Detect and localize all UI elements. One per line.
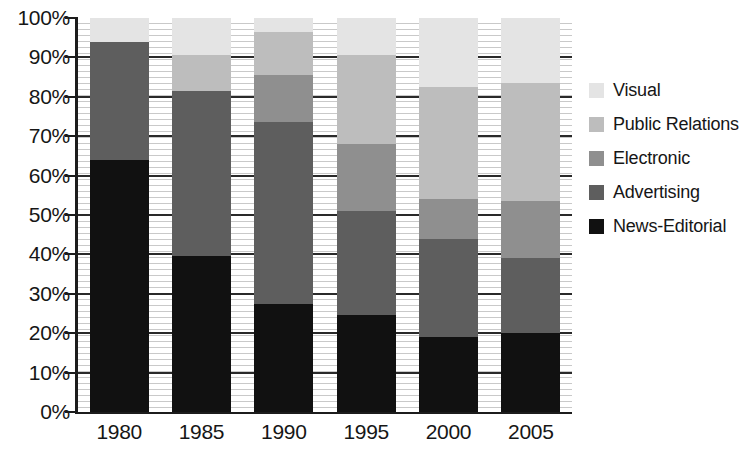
legend-item[interactable]: News-Editorial (589, 209, 748, 243)
y-axis-tick (65, 253, 78, 255)
legend-label: Public Relations (613, 114, 739, 134)
bar-segment[interactable] (501, 18, 560, 83)
bar-segment[interactable] (172, 256, 231, 412)
x-tick-label: 1995 (325, 420, 407, 444)
y-tick-label: 20% (0, 322, 70, 343)
bar-group[interactable] (419, 18, 478, 412)
y-tick-label: 100% (0, 7, 70, 28)
y-tick-label: 10% (0, 362, 70, 383)
bar-segment[interactable] (172, 55, 231, 90)
bar-segment[interactable] (172, 18, 231, 55)
bar-segment[interactable] (337, 144, 396, 211)
legend-swatch-icon (589, 117, 604, 132)
y-tick-label: 70% (0, 125, 70, 146)
gridline (78, 293, 572, 295)
legend: VisualPublic RelationsElectronicAdvertis… (589, 73, 748, 243)
legend-label: Visual (613, 80, 661, 100)
legend-swatch-icon (589, 151, 604, 166)
y-axis-tick (65, 96, 78, 98)
legend-swatch-icon (589, 219, 604, 234)
gridline (78, 214, 572, 216)
y-axis-tick (65, 214, 78, 216)
y-axis-tick (65, 332, 78, 334)
y-axis-tick (65, 175, 78, 177)
y-axis-tick (65, 411, 78, 413)
bar-segment[interactable] (419, 337, 478, 412)
bar-segment[interactable] (172, 91, 231, 256)
legend-item[interactable]: Advertising (589, 175, 748, 209)
bar-segment[interactable] (419, 87, 478, 199)
bar-segment[interactable] (90, 160, 149, 412)
gridline (78, 253, 572, 255)
gridline (78, 56, 572, 58)
bar-segment[interactable] (254, 75, 313, 122)
bar-group[interactable] (337, 18, 396, 412)
bar-segment[interactable] (337, 55, 396, 144)
y-axis-tick (65, 293, 78, 295)
bar-segment[interactable] (254, 122, 313, 303)
bar-segment[interactable] (419, 239, 478, 338)
x-axis: 198019851990199520002005 (78, 420, 572, 453)
bar-group[interactable] (501, 18, 560, 412)
bar-group[interactable] (90, 18, 149, 412)
y-axis-tick (65, 56, 78, 58)
y-tick-label: 60% (0, 165, 70, 186)
legend-label: News-Editorial (613, 216, 726, 236)
bar-segment[interactable] (254, 304, 313, 412)
legend-label: Electronic (613, 148, 690, 168)
y-tick-label: 50% (0, 204, 70, 225)
legend-label: Advertising (613, 182, 700, 202)
bar-segment[interactable] (90, 42, 149, 160)
y-tick-label: 0% (0, 401, 70, 422)
y-axis-tick (65, 17, 78, 19)
x-tick-label: 2005 (490, 420, 572, 444)
bar-segment[interactable] (254, 18, 313, 32)
y-axis-tick (65, 135, 78, 137)
x-tick-label: 2000 (407, 420, 489, 444)
y-tick-label: 30% (0, 283, 70, 304)
gridline (78, 372, 572, 374)
bar-segment[interactable] (419, 199, 478, 238)
x-tick-label: 1985 (160, 420, 242, 444)
y-axis: 0%10%20%30%40%50%60%70%80%90%100% (0, 0, 70, 453)
bar-segment[interactable] (501, 201, 560, 258)
plot-area (78, 18, 572, 412)
bar-group[interactable] (254, 18, 313, 412)
bar-group[interactable] (172, 18, 231, 412)
y-tick-label: 90% (0, 46, 70, 67)
bar-segment[interactable] (501, 258, 560, 333)
legend-item[interactable]: Public Relations (589, 107, 748, 141)
bar-segment[interactable] (337, 18, 396, 55)
bar-segment[interactable] (337, 315, 396, 412)
y-axis-tick (65, 372, 78, 374)
legend-item[interactable]: Electronic (589, 141, 748, 175)
x-tick-label: 1990 (243, 420, 325, 444)
gridline (78, 135, 572, 137)
legend-swatch-icon (589, 185, 604, 200)
y-tick-label: 80% (0, 86, 70, 107)
gridline (78, 96, 572, 98)
bar-segment[interactable] (254, 32, 313, 75)
bar-segment[interactable] (419, 18, 478, 87)
y-tick-label: 40% (0, 243, 70, 264)
bar-segment[interactable] (501, 333, 560, 412)
legend-item[interactable]: Visual (589, 73, 748, 107)
bar-segment[interactable] (501, 83, 560, 201)
x-tick-label: 1980 (78, 420, 160, 444)
legend-swatch-icon (589, 83, 604, 98)
gridline (78, 332, 572, 334)
bar-segment[interactable] (90, 18, 149, 42)
gridline (78, 175, 572, 177)
bar-segment[interactable] (337, 211, 396, 315)
stacked-bar-chart: 0%10%20%30%40%50%60%70%80%90%100% 198019… (0, 0, 748, 453)
